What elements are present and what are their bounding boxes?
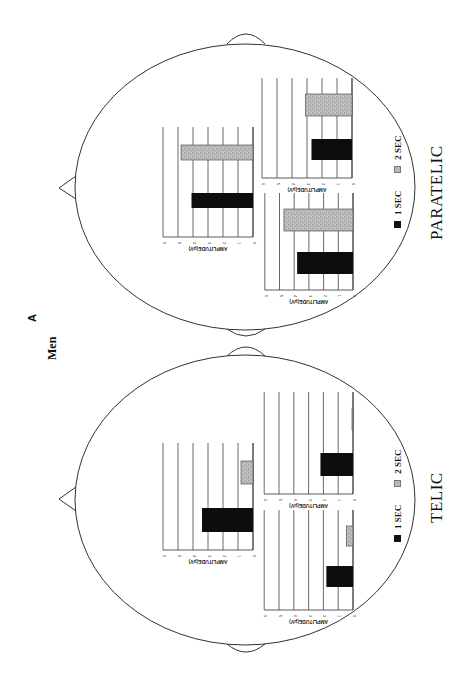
tick-label: 0 bbox=[252, 242, 257, 245]
tick-label: 1 bbox=[337, 499, 342, 502]
tick-label: 5 bbox=[177, 555, 182, 558]
head-paratelic bbox=[59, 34, 415, 336]
nose-icon bbox=[59, 487, 76, 511]
bar-1sec bbox=[312, 139, 353, 160]
tick-label: 1 bbox=[336, 183, 341, 186]
bar-2sec bbox=[346, 526, 353, 546]
tick-label: 5 bbox=[279, 295, 284, 298]
bar-chart: 0123456AMPLITUDE(μV) bbox=[263, 392, 357, 509]
panel-letter: A bbox=[26, 314, 38, 322]
nose-icon bbox=[59, 176, 76, 199]
axis-label: AMPLITUDE(μV) bbox=[289, 299, 328, 305]
legend-label-2sec: 2 SEC bbox=[393, 135, 403, 159]
tick-label: 2 bbox=[322, 499, 327, 502]
tick-label: 1 bbox=[337, 295, 342, 298]
legend-label-1sec: 1 SEC bbox=[393, 191, 403, 215]
bar-1sec bbox=[297, 252, 353, 274]
tick-label: 1 bbox=[337, 615, 342, 618]
tick-label: 3 bbox=[207, 242, 212, 245]
tick-label: 4 bbox=[192, 555, 197, 558]
tick-label: 3 bbox=[306, 183, 311, 186]
tick-label: 2 bbox=[222, 242, 227, 245]
tick-label: 5 bbox=[278, 499, 283, 502]
bar-chart: 0123456AMPLITUDE(μV) bbox=[263, 510, 357, 625]
legend-swatch-1sec bbox=[394, 535, 401, 542]
tick-label: 6 bbox=[263, 499, 268, 502]
tick-label: 1 bbox=[237, 242, 242, 245]
condition-label-telic: TELIC bbox=[427, 472, 447, 523]
tick-label: 3 bbox=[207, 555, 212, 558]
legend-paratelic: 1 SEC 2 SEC bbox=[387, 135, 405, 228]
tick-label: 0 bbox=[252, 555, 257, 558]
bar-chart: 0123456AMPLITUDE(μV) bbox=[162, 127, 257, 252]
bar-2sec bbox=[306, 94, 353, 116]
legend-swatch-2sec bbox=[394, 480, 401, 487]
bar-chart: 0123456AMPLITUDE(μV) bbox=[261, 78, 356, 193]
tick-label: 4 bbox=[293, 499, 298, 502]
tick-label: 2 bbox=[321, 183, 326, 186]
tick-label: 2 bbox=[322, 615, 327, 618]
head-telic bbox=[59, 347, 415, 652]
tick-label: 0 bbox=[352, 499, 357, 502]
tick-label: 6 bbox=[264, 295, 269, 298]
head-outline bbox=[75, 355, 415, 645]
tick-label: 6 bbox=[162, 555, 167, 558]
bar-1sec bbox=[320, 453, 353, 476]
bar-1sec bbox=[192, 193, 254, 208]
bar-1sec bbox=[326, 566, 353, 587]
axis-label: AMPLITUDE(μV) bbox=[188, 246, 227, 252]
tick-label: 5 bbox=[276, 183, 281, 186]
tick-label: 4 bbox=[291, 183, 296, 186]
tick-label: 4 bbox=[192, 242, 197, 245]
tick-label: 2 bbox=[323, 295, 328, 298]
bar-2sec bbox=[241, 461, 253, 484]
axis-label: AMPLITUDE(μV) bbox=[289, 619, 328, 625]
bar-1sec bbox=[202, 508, 253, 532]
tick-label: 3 bbox=[308, 295, 313, 298]
tick-label: 3 bbox=[308, 615, 313, 618]
tick-label: 4 bbox=[293, 615, 298, 618]
tick-label: 4 bbox=[293, 295, 298, 298]
axis-label: AMPLITUDE(μV) bbox=[289, 503, 328, 509]
legend-label-1sec: 1 SEC bbox=[393, 505, 403, 529]
legend-swatch-1sec bbox=[394, 221, 401, 228]
bar-2sec bbox=[284, 209, 353, 231]
tick-label: 0 bbox=[352, 615, 357, 618]
tick-label: 0 bbox=[351, 183, 356, 186]
ear-top-icon bbox=[227, 34, 265, 44]
figure-canvas: 0123456AMPLITUDE(μV)0123456AMPLITUDE(μV)… bbox=[0, 0, 468, 685]
bar-chart: 0123456AMPLITUDE(μV) bbox=[162, 443, 257, 565]
tick-label: 6 bbox=[162, 242, 167, 245]
bar-2sec bbox=[181, 145, 253, 160]
axis-label: AMPLITUDE(μV) bbox=[188, 559, 227, 565]
legend-swatch-2sec bbox=[394, 166, 401, 173]
tick-label: 1 bbox=[237, 555, 242, 558]
legend-telic: 1 SEC 2 SEC bbox=[387, 449, 405, 542]
legend-label-2sec: 2 SEC bbox=[393, 449, 403, 473]
condition-label-paratelic: PARATELIC bbox=[427, 145, 447, 240]
axis-label: AMPLITUDE(μV) bbox=[287, 187, 326, 193]
tick-label: 6 bbox=[261, 183, 266, 186]
panel-title: Men bbox=[45, 337, 60, 360]
tick-label: 5 bbox=[177, 242, 182, 245]
tick-label: 3 bbox=[308, 499, 313, 502]
bar-2sec bbox=[352, 408, 353, 430]
head-outline bbox=[75, 44, 415, 330]
tick-label: 5 bbox=[278, 615, 283, 618]
tick-label: 6 bbox=[263, 615, 268, 618]
bar-chart: 0123456AMPLITUDE(μV) bbox=[264, 193, 357, 305]
tick-label: 2 bbox=[222, 555, 227, 558]
